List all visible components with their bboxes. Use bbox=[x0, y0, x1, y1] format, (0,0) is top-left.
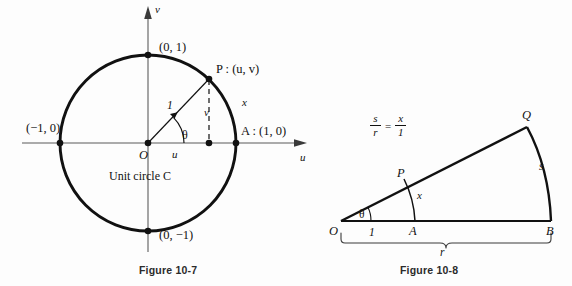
proportion-equation: s r = x 1 bbox=[369, 113, 407, 138]
point-bottom-0-neg1 bbox=[145, 228, 152, 235]
inner-arc-length-label: x bbox=[417, 189, 422, 201]
figure-10-7-caption: Figure 10-7 bbox=[139, 264, 197, 276]
fraction-numerator-x: x bbox=[396, 113, 405, 124]
theta-arc-arrowhead bbox=[170, 112, 178, 119]
point-label-top: (0, 1) bbox=[159, 40, 186, 55]
radius-length-label: 1 bbox=[167, 99, 173, 111]
fraction-numerator-s: s bbox=[371, 113, 379, 124]
point-label-P: P : (u, v) bbox=[216, 62, 259, 77]
point-origin-O bbox=[145, 140, 152, 147]
theta-angle-arc-8 bbox=[368, 207, 371, 221]
equals-sign: = bbox=[382, 120, 394, 132]
u-axis-arrowhead bbox=[294, 139, 307, 147]
vertex-label-O: O bbox=[329, 224, 338, 239]
point-left-neg1-0 bbox=[57, 140, 64, 147]
unit-circle-annotation: Unit circle C bbox=[109, 169, 171, 184]
point-right-A-1-0 bbox=[233, 140, 240, 147]
point-P-on-circle bbox=[206, 76, 213, 83]
vertex-label-A: A bbox=[409, 224, 417, 239]
vertex-label-Q: Q bbox=[522, 108, 531, 123]
v-axis-arrowhead bbox=[144, 6, 152, 19]
point-label-left: (−1, 0) bbox=[26, 121, 60, 136]
fraction-s-over-r: s r bbox=[369, 113, 382, 138]
point-label-right-A: A : (1, 0) bbox=[241, 124, 286, 139]
outer-arc-QB bbox=[527, 127, 551, 221]
fraction-denominator-r: r bbox=[371, 127, 379, 138]
v-axis-label: v bbox=[155, 3, 160, 15]
u-axis-label: u bbox=[300, 151, 306, 163]
vertex-label-B: B bbox=[546, 224, 554, 239]
point-top-0-1 bbox=[145, 52, 152, 59]
outer-arc-length-label: s bbox=[539, 160, 543, 172]
radius-segment-OP bbox=[148, 79, 209, 143]
figures-vector-canvas bbox=[0, 0, 572, 286]
theta-label: θ bbox=[182, 128, 188, 143]
figure-page: v u (0, 1) (0, −1) (−1, 0) A : (1, 0) P … bbox=[0, 0, 572, 286]
point-foot-of-perpendicular bbox=[206, 140, 213, 147]
fraction-x-over-1: x 1 bbox=[394, 113, 407, 138]
vertical-leg-label: v bbox=[204, 106, 209, 118]
arc-length-label: x bbox=[242, 96, 247, 108]
origin-label-O: O bbox=[139, 148, 148, 163]
figure-10-8-caption: Figure 10-8 bbox=[400, 264, 458, 276]
ray-segment-OQ bbox=[341, 127, 527, 221]
fraction-denominator-1: 1 bbox=[396, 127, 406, 138]
theta-label-8: θ bbox=[359, 208, 365, 220]
vertex-label-P: P bbox=[397, 166, 405, 181]
horizontal-leg-label: u bbox=[172, 148, 178, 160]
point-label-bottom: (0, −1) bbox=[159, 228, 193, 243]
unit-segment-label: 1 bbox=[369, 226, 375, 238]
radius-brace-label: r bbox=[440, 246, 444, 258]
